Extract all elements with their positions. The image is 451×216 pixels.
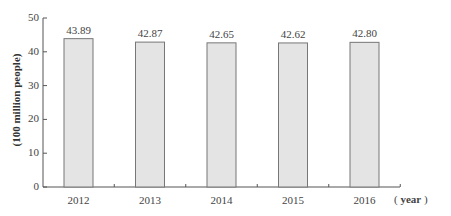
bar-2015 [279,43,308,187]
y-tick-label: 20 [19,112,39,124]
x-category-label: 2013 [130,194,170,206]
bar-value-label: 43.89 [59,24,99,36]
y-tick-label: 40 [19,45,39,57]
y-tick-label: 30 [19,79,39,91]
bar-2014 [207,43,236,187]
bar-value-label: 42.87 [130,27,170,39]
bar-2012 [64,39,93,187]
bar-2013 [136,42,165,187]
bar-chart: (100 million people) 01020304050 43.8942… [0,0,451,216]
x-category-label: 2016 [345,194,385,206]
x-category-label: 2012 [59,194,99,206]
y-tick-label: 0 [19,180,39,192]
y-axis-title: (100 million people) [10,40,24,160]
y-tick-label: 10 [19,146,39,158]
bar-value-label: 42.65 [202,28,242,40]
bar-value-label: 42.62 [273,28,313,40]
bar-2016 [350,42,379,187]
x-category-label: 2015 [273,194,313,206]
y-tick-label: 50 [19,11,39,23]
x-axis-unit: ( year ) [394,193,428,205]
bar-value-label: 42.80 [345,27,385,39]
x-category-label: 2014 [202,194,242,206]
